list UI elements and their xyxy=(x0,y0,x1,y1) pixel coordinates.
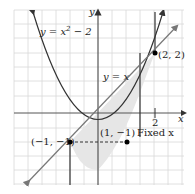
point-2-2 xyxy=(153,51,158,56)
region-between-curves-diagram: y = x2 − 2 y = x y x 2 (−1, −1) (1, −1) … xyxy=(0,0,195,194)
point-a-label: (−1, −1) xyxy=(31,136,75,147)
parabola-label: y = x2 − 2 xyxy=(39,25,92,37)
line-label: y = x xyxy=(102,71,129,82)
y-axis-label: y xyxy=(88,6,95,17)
fixed-x-label: Fixed x xyxy=(137,127,174,138)
point-c-label: (2, 2) xyxy=(158,49,185,60)
point-b-label: (1, −1) xyxy=(100,127,135,138)
x-axis-label: x xyxy=(178,113,184,124)
point-1-neg1 xyxy=(125,140,130,145)
